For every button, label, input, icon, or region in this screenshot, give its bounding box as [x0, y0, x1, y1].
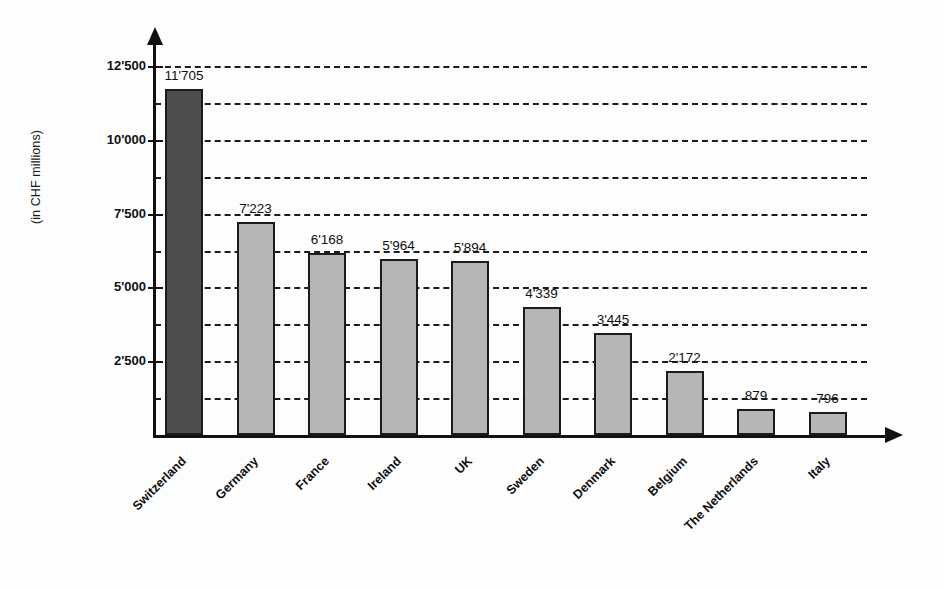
y-axis-tick-label: 10'000: [78, 132, 146, 147]
bar-italy[interactable]: [809, 412, 847, 435]
y-axis-tick-label-wrap: 7'500: [78, 206, 146, 222]
y-axis-tick-label: 2'500: [78, 353, 146, 368]
bar-belgium[interactable]: [666, 371, 704, 435]
bar-germany[interactable]: [237, 222, 275, 435]
y-axis-tick-label: 5'000: [78, 279, 146, 294]
y-axis-tick: [148, 361, 163, 363]
bar-value-label: 879: [716, 388, 796, 403]
bar-uk[interactable]: [451, 261, 489, 435]
y-axis-tick: [148, 214, 163, 216]
bar-value-label: 11'705: [144, 68, 224, 83]
y-axis-tick-label-wrap: 2'500: [78, 353, 146, 369]
y-axis-tick: [148, 287, 163, 289]
gridline: [155, 66, 867, 68]
bar-value-label: 7'223: [216, 201, 296, 216]
y-axis-line: [153, 42, 156, 437]
plot-area: 2'5005'0007'50010'00012'50011'705Switzer…: [0, 0, 944, 589]
bar-value-label: 6'168: [287, 232, 367, 247]
bar-the-netherlands[interactable]: [737, 409, 775, 435]
y-axis-tick-label: 12'500: [78, 58, 146, 73]
bar-value-label: 5'964: [359, 238, 439, 253]
x-axis-arrow-icon: [885, 427, 903, 443]
bar-value-label: 3'445: [573, 312, 653, 327]
y-axis-tick-label-wrap: 5'000: [78, 279, 146, 295]
y-axis-arrow-icon: [147, 27, 163, 45]
bar-france[interactable]: [308, 253, 346, 435]
bar-value-label: 2'172: [645, 350, 725, 365]
gridline: [155, 140, 867, 142]
bar-value-label: 5'894: [430, 240, 510, 255]
bar-value-label: 4'339: [502, 286, 582, 301]
bar-chart: (in CHF millions) 2'5005'0007'50010'0001…: [0, 0, 944, 589]
bar-sweden[interactable]: [523, 307, 561, 435]
y-axis-tick-label: 7'500: [78, 206, 146, 221]
bar-denmark[interactable]: [594, 333, 632, 435]
gridline: [155, 103, 867, 105]
y-axis-tick-label-wrap: 12'500: [78, 58, 146, 74]
gridline: [155, 177, 867, 179]
bar-value-label: 796: [788, 391, 868, 406]
y-axis-tick-label-wrap: 10'000: [78, 132, 146, 148]
bar-ireland[interactable]: [380, 259, 418, 435]
x-axis-line: [153, 435, 888, 438]
bar-switzerland[interactable]: [165, 89, 203, 435]
y-axis-tick: [148, 140, 163, 142]
